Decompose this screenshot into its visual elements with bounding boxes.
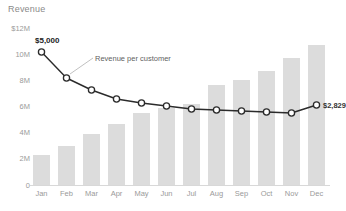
- bars-layer: [30, 28, 330, 185]
- chart-title: Revenue: [8, 4, 45, 14]
- x-tick-label: Apr: [111, 189, 123, 198]
- end-value-label: $2,829: [323, 101, 346, 110]
- y-tick-label: 0: [4, 181, 30, 190]
- x-tick-label: Jan: [35, 189, 47, 198]
- y-tick-label: 4M: [4, 128, 30, 137]
- x-tick-label: Jun: [160, 189, 172, 198]
- bar-aug: [208, 85, 225, 185]
- y-tick-label: $12M: [4, 24, 30, 33]
- bar-may: [133, 113, 150, 185]
- bar-feb: [58, 146, 75, 185]
- x-tick-label: Oct: [261, 189, 273, 198]
- y-tick-label: 8M: [4, 76, 30, 85]
- bar-oct: [258, 71, 275, 185]
- x-tick-label: Sep: [235, 189, 248, 198]
- bar-mar: [83, 134, 100, 185]
- y-tick-label: 2M: [4, 154, 30, 163]
- y-tick-label: 6M: [4, 102, 30, 111]
- bar-jun: [158, 108, 175, 185]
- x-axis-line: [30, 185, 330, 186]
- x-tick-label: Feb: [60, 189, 73, 198]
- bar-sep: [233, 80, 250, 185]
- x-tick-label: Jul: [187, 189, 197, 198]
- x-tick-label: Aug: [210, 189, 223, 198]
- y-tick-label: 10M: [4, 50, 30, 59]
- x-tick-label: Dec: [310, 189, 323, 198]
- bar-apr: [108, 124, 125, 185]
- start-value-label: $5,000: [35, 36, 59, 45]
- bar-jan: [33, 155, 50, 185]
- bar-jul: [183, 104, 200, 185]
- bar-dec: [308, 45, 325, 185]
- x-tick-label: Nov: [285, 189, 298, 198]
- x-tick-label: May: [134, 189, 148, 198]
- x-tick-label: Mar: [85, 189, 98, 198]
- series-label: Revenue per customer: [95, 54, 171, 63]
- bar-nov: [283, 58, 300, 185]
